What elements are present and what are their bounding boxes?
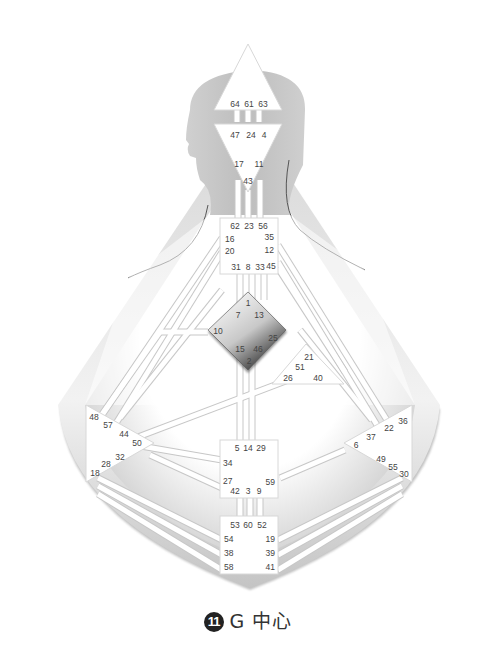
gate-3: 3 <box>246 486 251 496</box>
gate-24: 24 <box>246 130 256 140</box>
gate-14: 14 <box>243 443 253 453</box>
gate-63: 63 <box>258 99 268 109</box>
gate-5: 5 <box>235 443 240 453</box>
gate-9: 9 <box>257 486 262 496</box>
gate-35: 35 <box>265 232 275 242</box>
gate-60: 60 <box>243 520 253 530</box>
sacral-center: 5 14 29 34 27 59 42 3 9 <box>220 440 278 498</box>
gate-61: 61 <box>244 99 254 109</box>
figure-caption: 11G 中心 <box>0 606 496 633</box>
gate-11: 11 <box>255 159 264 169</box>
gate-33: 33 <box>255 262 265 272</box>
caption-number-badge: 11 <box>204 612 224 632</box>
gate-54: 54 <box>224 534 234 544</box>
gate-62: 62 <box>230 221 240 231</box>
gate-23: 23 <box>244 221 254 231</box>
root-center: 53 60 52 54 19 38 39 58 41 <box>220 516 278 574</box>
gate-30: 30 <box>399 469 409 479</box>
gate-48: 48 <box>89 412 99 422</box>
gate-41: 41 <box>266 562 276 572</box>
gate-25: 25 <box>268 333 278 343</box>
gate-28: 28 <box>101 459 111 469</box>
gate-1: 1 <box>246 298 251 308</box>
caption-text: G 中心 <box>230 610 293 632</box>
gate-64: 64 <box>230 99 240 109</box>
gate-59: 59 <box>266 477 276 487</box>
gate-18: 18 <box>90 468 100 478</box>
gate-50: 50 <box>132 438 142 448</box>
gate-57: 57 <box>103 420 113 430</box>
gate-55: 55 <box>388 462 398 472</box>
gate-10: 10 <box>213 326 223 336</box>
gate-42: 42 <box>230 486 240 496</box>
gate-51: 51 <box>295 362 305 372</box>
gate-37: 37 <box>366 432 376 442</box>
gate-49: 49 <box>376 454 386 464</box>
gate-6: 6 <box>354 440 359 450</box>
gate-29: 29 <box>256 443 266 453</box>
throat-center: 62 23 56 16 35 20 12 31 8 33 45 <box>220 218 278 274</box>
gate-13: 13 <box>254 310 264 320</box>
gate-45: 45 <box>266 261 276 271</box>
gate-19: 19 <box>266 534 276 544</box>
gate-44: 44 <box>119 429 129 439</box>
gate-39: 39 <box>266 548 276 558</box>
gate-20: 20 <box>225 246 235 256</box>
gate-58: 58 <box>224 562 234 572</box>
gate-22: 22 <box>384 423 394 433</box>
gate-52: 52 <box>257 520 267 530</box>
gate-27: 27 <box>223 476 233 486</box>
gate-2: 2 <box>247 356 252 366</box>
gate-34: 34 <box>223 458 233 468</box>
gate-53: 53 <box>230 520 240 530</box>
gate-43: 43 <box>243 176 253 186</box>
gate-47: 47 <box>230 130 240 140</box>
gate-16: 16 <box>225 234 235 244</box>
gate-12: 12 <box>265 245 275 255</box>
gate-8: 8 <box>246 262 251 272</box>
gate-32: 32 <box>115 452 125 462</box>
bodygraph-diagram: 64 61 63 47 24 4 17 11 43 62 23 56 16 35… <box>0 0 496 600</box>
gate-46: 46 <box>253 344 263 354</box>
gate-26: 26 <box>283 373 293 383</box>
gate-40: 40 <box>313 373 323 383</box>
gate-21: 21 <box>304 352 314 362</box>
gate-17: 17 <box>234 159 244 169</box>
gate-15: 15 <box>235 344 245 354</box>
gate-31: 31 <box>231 262 241 272</box>
gate-38: 38 <box>224 548 234 558</box>
gate-56: 56 <box>258 221 268 231</box>
gate-36: 36 <box>398 416 408 426</box>
gate-7: 7 <box>236 310 241 320</box>
gate-4: 4 <box>262 130 267 140</box>
